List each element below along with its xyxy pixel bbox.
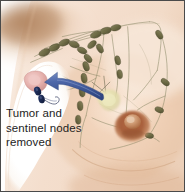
sentinel-node-biopsy-illustration: Tumor and sentinel nodes removed <box>0 0 185 192</box>
removal-arrow <box>1 1 184 191</box>
